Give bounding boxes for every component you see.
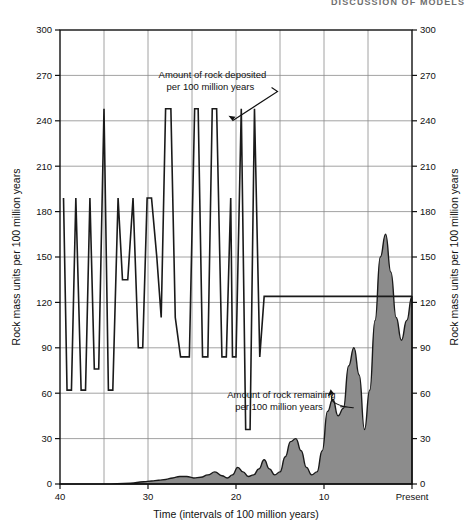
y-axis-tick-label-left: 300: [36, 24, 52, 35]
y-axis-tick-label-right: 150: [420, 251, 436, 262]
rock-mass-chart: 0030306060909012012015015018018021021024…: [0, 0, 475, 523]
y-axis-tick-label-left: 60: [41, 388, 52, 399]
y-axis-tick-label-left: 210: [36, 161, 52, 172]
y-axis-tick-label-right: 300: [420, 24, 436, 35]
y-axis-title-right: Rock mass units per 100 million years: [448, 169, 460, 346]
x-axis-title: Time (intervals of 100 million years): [153, 508, 318, 520]
x-axis-tick-label: 40: [55, 491, 66, 502]
y-axis-tick-label-right: 240: [420, 115, 436, 126]
y-axis-tick-label-right: 210: [420, 161, 436, 172]
remaining-annotation-line1: Amount of rock remaining: [227, 389, 335, 400]
x-axis-tick-label: Present: [396, 491, 429, 502]
chart-figure: 0030306060909012012015015018018021021024…: [0, 0, 475, 523]
deposited-annotation-line1: Amount of rock deposited: [159, 69, 267, 80]
y-axis-tick-label-left: 150: [36, 251, 52, 262]
x-axis-tick-label: 20: [231, 491, 242, 502]
y-axis-title-left: Rock mass units per 100 million years: [10, 169, 22, 346]
x-axis-tick-label: 30: [143, 491, 154, 502]
y-axis-tick-label-left: 240: [36, 115, 52, 126]
y-axis-tick-label-left: 30: [41, 433, 52, 444]
x-axis-tick-label: 10: [319, 491, 330, 502]
y-axis-tick-label-left: 180: [36, 206, 52, 217]
y-axis-tick-label-right: 60: [420, 388, 431, 399]
y-axis-tick-label-right: 120: [420, 297, 436, 308]
y-axis-tick-label-left: 270: [36, 70, 52, 81]
y-axis-tick-label-right: 0: [420, 478, 425, 489]
y-axis-tick-label-right: 270: [420, 70, 436, 81]
deposited-annotation-line2: per 100 million years: [167, 81, 255, 92]
y-axis-tick-label-right: 30: [420, 433, 431, 444]
y-axis-tick-label-right: 180: [420, 206, 436, 217]
y-axis-tick-label-left: 90: [41, 342, 52, 353]
remaining-annotation-line2: per 100 million years: [235, 401, 323, 412]
y-axis-tick-label-left: 120: [36, 297, 52, 308]
y-axis-tick-label-right: 90: [420, 342, 431, 353]
y-axis-tick-label-left: 0: [47, 478, 52, 489]
